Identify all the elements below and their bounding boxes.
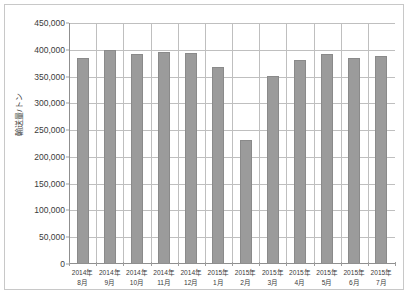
x-tick-label: 2015年1月 [205,268,232,287]
bar[interactable] [348,58,360,264]
bar[interactable] [294,60,306,264]
x-tick-label-year: 2014年 [96,268,123,278]
x-tick-label-year: 2015年 [314,268,341,278]
x-tick-label-year: 2015年 [232,268,259,278]
x-tick-label-year: 2015年 [286,268,313,278]
x-tick-label: 2014年11月 [151,268,178,287]
x-axis-tick-labels: 2014年8月2014年9月2014年10月2014年11月2014年12月20… [69,266,395,292]
chart-frame: 輸送量/トン 450,000400,000350,000300,000250,0… [4,4,404,290]
x-tick-label-month: 2月 [232,278,259,288]
x-tick-label: 2015年4月 [286,268,313,287]
x-tick-mark [178,262,179,266]
bar[interactable] [77,58,89,264]
y-tick-label: 450,000 [13,18,65,28]
x-tick-label-month: 10月 [123,278,150,288]
x-tick-label: 2015年6月 [341,268,368,287]
y-tick-label: 50,000 [13,232,65,242]
x-tick-mark [259,262,260,266]
y-tick-label: 0 [13,259,65,269]
x-tick-mark [232,262,233,266]
x-tick-label-month: 12月 [178,278,205,288]
x-tick-mark [151,262,152,266]
x-tick-label: 2014年10月 [123,268,150,287]
bar[interactable] [185,53,197,264]
x-tick-label: 2015年7月 [368,268,395,287]
x-tick-label-month: 1月 [205,278,232,288]
x-tick-label-month: 6月 [341,278,368,288]
x-tick-label-year: 2014年 [123,268,150,278]
y-tick-label: 350,000 [13,72,65,82]
x-tick-mark [69,262,70,266]
y-axis-tick-labels: 450,000400,000350,000300,000250,000200,0… [13,23,65,264]
x-tick-label: 2014年9月 [96,268,123,287]
x-tick-label-year: 2015年 [341,268,368,278]
x-tick-label: 2015年5月 [314,268,341,287]
bar[interactable] [375,56,387,264]
x-tick-label: 2015年3月 [259,268,286,287]
bar[interactable] [212,67,224,264]
bar[interactable] [158,52,170,264]
x-tick-label-year: 2015年 [205,268,232,278]
y-tick-label: 200,000 [13,152,65,162]
x-tick-mark [123,262,124,266]
bar[interactable] [240,140,252,264]
bar[interactable] [321,54,333,264]
y-tick-label: 100,000 [13,205,65,215]
y-tick-label: 250,000 [13,125,65,135]
bars-layer [69,23,395,264]
x-tick-label-month: 4月 [286,278,313,288]
x-tick-mark [96,262,97,266]
x-tick-mark [314,262,315,266]
plot-area [69,23,395,264]
x-tick-label-year: 2014年 [151,268,178,278]
bar[interactable] [104,50,116,264]
bar[interactable] [267,76,279,265]
x-tick-mark [368,262,369,266]
x-tick-label: 2014年8月 [69,268,96,287]
x-tick-mark [341,262,342,266]
x-tick-mark [395,262,396,266]
x-tick-label: 2015年2月 [232,268,259,287]
x-tick-mark [286,262,287,266]
x-tick-label-month: 3月 [259,278,286,288]
x-tick-label-month: 11月 [151,278,178,288]
x-tick-label: 2014年12月 [178,268,205,287]
x-tick-label-year: 2014年 [69,268,96,278]
x-tick-label-year: 2014年 [178,268,205,278]
x-tick-label-year: 2015年 [259,268,286,278]
x-tick-label-month: 8月 [69,278,96,288]
y-tick-label: 300,000 [13,98,65,108]
y-tick-label: 150,000 [13,179,65,189]
x-tick-label-month: 5月 [314,278,341,288]
y-tick-label: 400,000 [13,45,65,55]
bar[interactable] [131,54,143,264]
x-tick-label-month: 7月 [368,278,395,288]
x-tick-label-year: 2015年 [368,268,395,278]
x-tick-label-month: 9月 [96,278,123,288]
x-tick-mark [205,262,206,266]
y-axis-line [69,23,70,264]
